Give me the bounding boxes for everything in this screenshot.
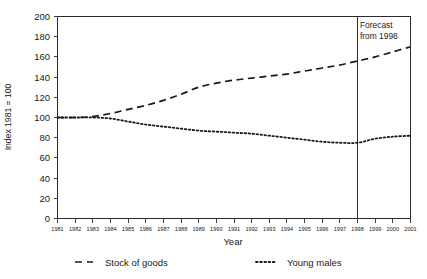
x-tick-label: 1985 [122,226,134,232]
x-tick-label: 1984 [104,226,116,232]
x-tick-label: 1991 [228,226,240,232]
x-tick-label: 2000 [387,226,399,232]
x-tick-label: 1986 [140,226,152,232]
x-tick-label: 1992 [245,226,257,232]
line-chart-figure: 020406080100120140160180200 198119821983… [0,0,427,279]
y-tick-label: 20 [39,193,50,204]
x-axis-ticks [58,219,411,223]
x-tick-label: 1997 [334,226,346,232]
legend-label-young-males: Young males [287,257,342,268]
y-tick-label: 80 [39,132,50,143]
y-tick-label: 180 [34,31,50,42]
x-tick-label: 1994 [281,226,293,232]
x-tick-label: 1989 [192,226,204,232]
x-tick-label: 1988 [175,226,187,232]
y-tick-label: 40 [39,173,50,184]
x-axis-title: Year [223,236,242,247]
x-tick-label: 1996 [316,226,328,232]
y-tick-label: 0 [45,213,50,224]
chart-legend: Stock of goods Young males [75,257,342,268]
x-tick-label: 1995 [298,226,310,232]
x-tick-label: 1990 [210,226,222,232]
y-axis-title-group: Index 1981 = 100 [3,83,13,150]
x-tick-label: 1987 [157,226,169,232]
y-tick-label: 60 [39,152,50,163]
x-axis-tick-labels: 1981198219831984198519861987198819891990… [51,226,416,232]
y-axis-title: Index 1981 = 100 [3,83,13,150]
chart-svg: 020406080100120140160180200 198119821983… [0,0,427,279]
legend-label-stock-of-goods: Stock of goods [105,257,168,268]
y-tick-label: 200 [34,11,50,22]
y-tick-label: 120 [34,92,50,103]
x-tick-label: 1981 [51,226,63,232]
x-tick-label: 1983 [87,226,99,232]
y-tick-label: 140 [34,72,50,83]
x-tick-label: 1993 [263,226,275,232]
x-tick-label: 1998 [351,226,363,232]
y-tick-label: 160 [34,51,50,62]
x-tick-label: 1982 [69,226,81,232]
x-tick-label: 1999 [369,226,381,232]
y-tick-label: 100 [34,112,50,123]
forecast-label-line2: from 1998 [360,31,398,41]
forecast-label-line1: Forecast [360,20,393,30]
forecast-annotation: Forecast from 1998 [358,17,399,219]
y-axis-tick-labels: 020406080100120140160180200 [34,11,50,224]
x-tick-label: 2001 [404,226,416,232]
